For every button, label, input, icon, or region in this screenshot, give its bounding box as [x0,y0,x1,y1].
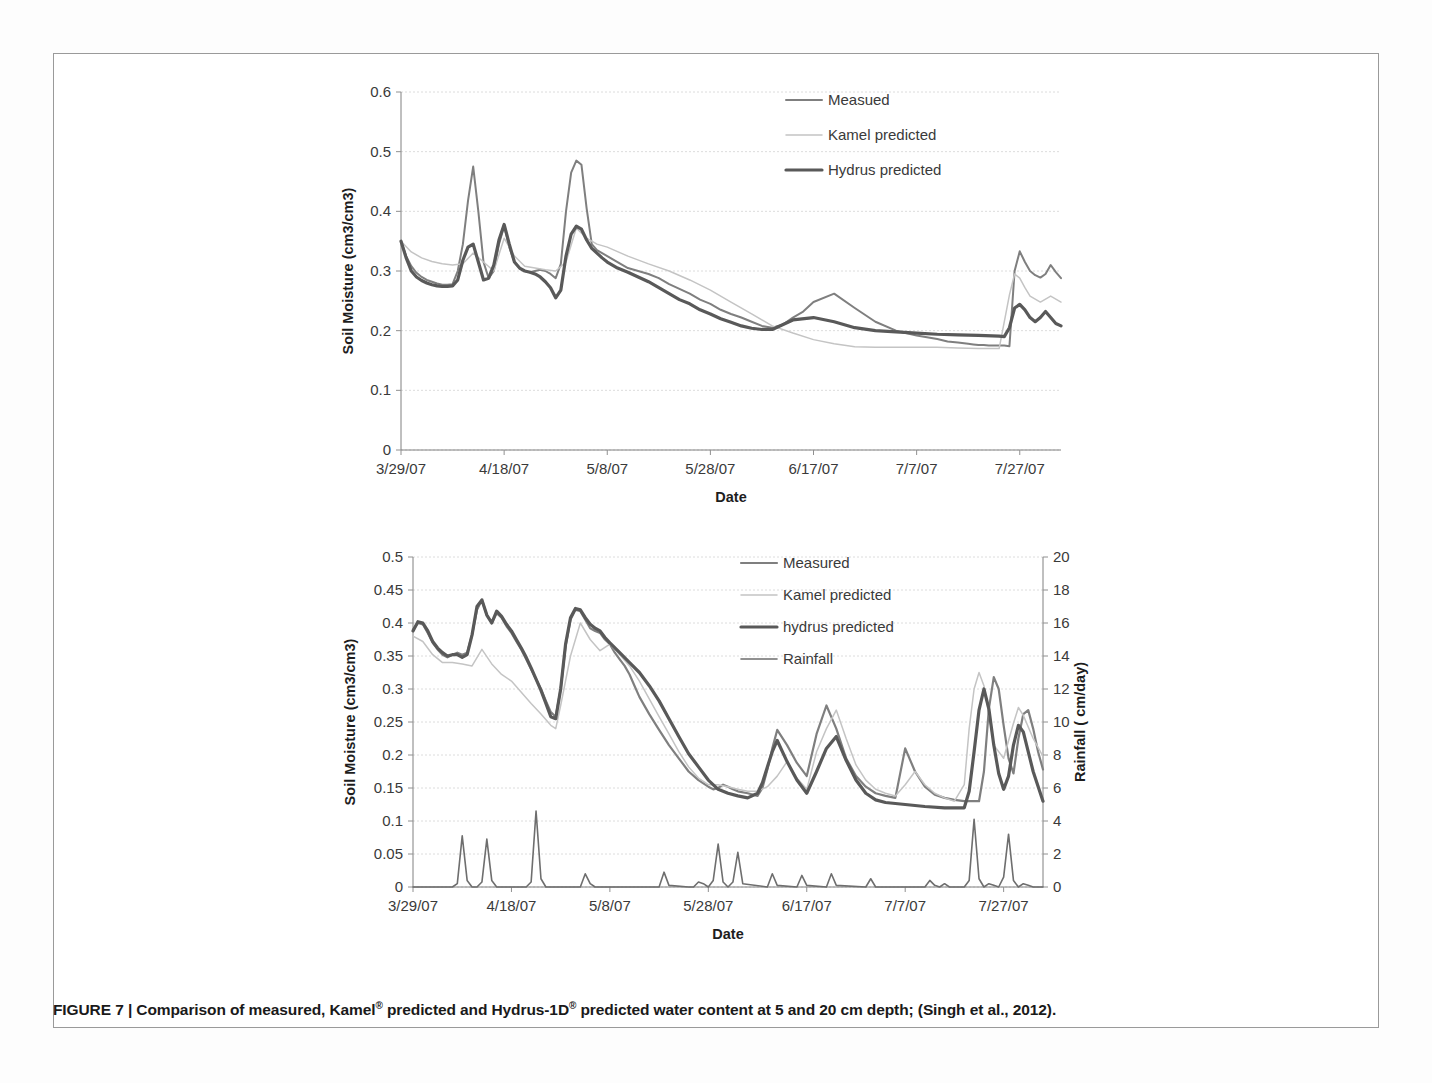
y2-tick-label: 0 [1053,878,1061,895]
y2-tick-label: 18 [1053,581,1070,598]
y-tick-label: 0 [383,441,391,458]
x-tick-label: 4/18/07 [486,897,536,914]
legend: MeasuredKamel predictedhydrus predictedR… [741,554,894,667]
y-tick-label: 0.4 [382,614,403,631]
y2-tick-label: 12 [1053,680,1070,697]
x-tick-label: 4/18/07 [479,460,529,477]
x-tick-label: 7/27/07 [979,897,1029,914]
y-tick-label: 0.3 [370,262,391,279]
series-line-measured [413,600,1043,801]
figure-caption: FIGURE 7 | Comparison of measured, Kamel… [53,1000,1379,1019]
legend-label-hydrus-predicted: Hydrus predicted [828,161,941,178]
y2-tick-label: 20 [1053,548,1070,565]
y-tick-label: 0.45 [374,581,403,598]
x-tick-label: 3/29/07 [376,460,426,477]
series-layer [401,161,1061,349]
x-tick-label: 7/7/07 [884,897,926,914]
y-tick-label: 0.6 [370,83,391,100]
chart-bottom-20cm: 00.050.10.150.20.250.30.350.40.450.50246… [301,541,1131,961]
y2-tick-label: 4 [1053,812,1061,829]
series-line-rainfall [413,811,1043,887]
caption-part2: predicted and Hydrus-1D [383,1001,569,1018]
y2-tick-label: 14 [1053,647,1070,664]
x-tick-label: 6/17/07 [782,897,832,914]
y-tick-label: 0.15 [374,779,403,796]
x-axis-title: Date [715,489,746,505]
series-line-hydrus-predicted [401,224,1061,336]
x-tick-label: 5/8/07 [589,897,631,914]
legend-label-rainfall: Rainfall [783,650,833,667]
y-tick-label: 0.5 [382,548,403,565]
series-layer [413,600,1043,887]
figure-frame: 00.10.20.30.40.50.63/29/074/18/075/8/075… [53,53,1379,1028]
y2-tick-label: 6 [1053,779,1061,796]
y2-tick-label: 2 [1053,845,1061,862]
chart-top-5cm: 00.10.20.30.40.50.63/29/074/18/075/8/075… [301,74,1081,534]
x-axis-title: Date [712,926,743,942]
caption-part1: Comparison of measured, Kamel [136,1001,375,1018]
axis-layer: 00.10.20.30.40.50.63/29/074/18/075/8/075… [370,83,1061,477]
figure-page: 00.10.20.30.40.50.63/29/074/18/075/8/075… [0,0,1432,1083]
y-axis-title: Soil Moisture (cm3/cm3) [342,638,358,805]
chart-top-svg: 00.10.20.30.40.50.63/29/074/18/075/8/075… [301,74,1081,534]
y-tick-label: 0.5 [370,143,391,160]
chart-bottom-svg: 00.050.10.150.20.250.30.350.40.450.50246… [301,541,1131,961]
y-tick-label: 0.25 [374,713,403,730]
y-tick-label: 0.05 [374,845,403,862]
x-tick-label: 6/17/07 [788,460,838,477]
x-tick-label: 5/28/07 [683,897,733,914]
x-tick-label: 3/29/07 [388,897,438,914]
y-tick-label: 0.1 [370,381,391,398]
grid-layer [401,92,1061,450]
legend-label-hydrus-predicted: hydrus predicted [783,618,894,635]
y2-axis-title: Rainfall ( cm/day) [1072,662,1088,782]
x-tick-label: 7/7/07 [896,460,938,477]
y2-tick-label: 8 [1053,746,1061,763]
caption-prefix: FIGURE 7 | [53,1001,136,1018]
y-tick-label: 0.1 [382,812,403,829]
y-tick-label: 0.2 [370,322,391,339]
legend-label-measued: Measued [828,91,890,108]
legend-label-measured: Measured [783,554,850,571]
y-tick-label: 0.3 [382,680,403,697]
caption-registered-1: ® [375,1000,382,1011]
y2-tick-label: 16 [1053,614,1070,631]
y-tick-label: 0 [395,878,403,895]
legend-label-kamel-predicted: Kamel predicted [828,126,936,143]
y2-tick-label: 10 [1053,713,1070,730]
series-line-kamel-predicted [413,623,1043,801]
x-tick-label: 5/28/07 [685,460,735,477]
legend: MeasuedKamel predictedHydrus predicted [786,91,941,178]
x-tick-label: 5/8/07 [586,460,628,477]
caption-part3: predicted water content at 5 and 20 cm d… [576,1001,1056,1018]
grid-layer [413,557,1043,887]
y-axis-title: Soil Moisture (cm3/cm3) [340,187,356,354]
y-tick-label: 0.4 [370,202,391,219]
series-line-hydrus-predicted [413,600,1043,808]
y-tick-label: 0.35 [374,647,403,664]
y-tick-label: 0.2 [382,746,403,763]
legend-label-kamel-predicted: Kamel predicted [783,586,891,603]
x-tick-label: 7/27/07 [995,460,1045,477]
